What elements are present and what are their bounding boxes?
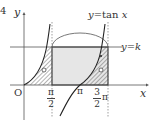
tick-3pi-over-2: 3 2 (93, 88, 101, 109)
line-label-rhs: k (135, 41, 141, 52)
semicircle-arc (52, 33, 108, 47)
origin-label: O (14, 88, 22, 98)
open-circle-right (99, 68, 103, 72)
tick-3pi-over-2-coef: 3 (94, 88, 100, 97)
y-axis-label: y (14, 7, 20, 18)
problem-number: 4 (0, 6, 6, 16)
open-circle-left (42, 68, 46, 72)
tick-pi-over-2-num: π (48, 88, 54, 97)
y-axis-arrow-icon (23, 12, 26, 15)
tick-3pi-over-2-den: 2 (94, 100, 100, 109)
intersection-dot (100, 55, 102, 57)
tick-3pi-over-2-sym: π (102, 93, 108, 102)
tick-pi-over-2-den: 2 (48, 100, 54, 109)
x-axis-arrow-icon (146, 84, 149, 87)
x-axis-label: x (140, 88, 146, 99)
tick-pi-over-2: π 2 (47, 88, 55, 109)
line-label-eq: = (127, 41, 135, 52)
curve-label-var: x (122, 9, 128, 20)
line-label: y=k (121, 42, 141, 52)
hatched-region-left (24, 47, 52, 85)
tick-pi: π (77, 87, 83, 96)
curve-label-eq: = (94, 9, 102, 20)
tangent-area-diagram (0, 0, 158, 128)
curve-label-fn: tan (102, 9, 118, 20)
curve-label: y=tan x (88, 10, 127, 20)
